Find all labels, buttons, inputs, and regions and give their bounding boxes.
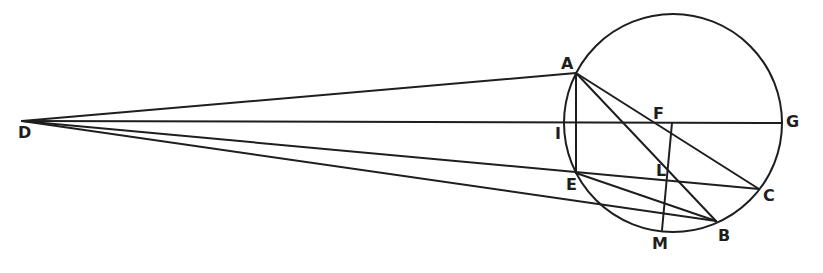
label-E: E [566, 177, 577, 193]
segment-DB [22, 121, 716, 221]
label-B: B [718, 228, 730, 244]
label-C: C [763, 188, 775, 204]
label-D: D [18, 125, 31, 141]
label-I: I [555, 126, 561, 142]
segment-DC [22, 121, 759, 189]
label-M: M [652, 236, 668, 252]
segment-AB [576, 73, 716, 221]
label-L: L [656, 163, 666, 179]
label-A: A [561, 56, 573, 72]
segment-EB [576, 173, 716, 221]
segment-DA [22, 73, 576, 121]
label-F: F [653, 106, 664, 122]
segment-DG [22, 121, 782, 123]
geometry-diagram [0, 0, 823, 273]
segments-group [22, 73, 782, 230]
label-G: G [786, 114, 799, 130]
